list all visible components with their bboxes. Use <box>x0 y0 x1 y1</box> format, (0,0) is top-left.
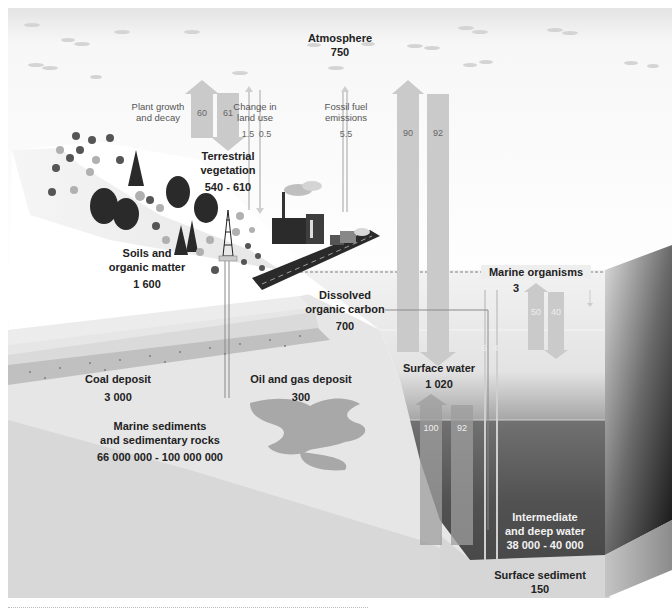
soils-label: Soils and organic matter 1 600 <box>92 246 202 291</box>
flux-deep-up: 100 <box>420 423 442 433</box>
terrestrial-line2: vegetation <box>178 163 278 177</box>
flux-doc-a: 6 <box>479 343 489 353</box>
surface-water-value: 1 020 <box>384 377 494 391</box>
flux-marine-up: 50 <box>528 307 544 317</box>
surface-water-label: Surface water 1 020 <box>384 361 494 391</box>
fossil-fuel-label: Fossil fuel emissions <box>316 101 376 123</box>
atmosphere-label: Atmosphere 750 <box>290 31 390 59</box>
deep-water-line2: and deep water <box>490 524 600 538</box>
oil-gas-value: 300 <box>236 390 366 404</box>
flux-plant-up: 60 <box>191 108 213 118</box>
soils-line2: organic matter <box>92 260 202 274</box>
terrestrial-value: 540 - 610 <box>178 180 278 194</box>
coal-name: Coal deposit <box>68 372 168 386</box>
doc-line2: organic carbon <box>290 302 400 316</box>
deep-water-line1: Intermediate <box>490 510 600 524</box>
flux-fossil: 5.5 <box>331 129 361 139</box>
flux-ocean-down: 92 <box>427 128 449 138</box>
coal-value: 3 000 <box>68 390 168 404</box>
terrestrial-vegetation-label: Terrestrial vegetation 540 - 610 <box>178 149 278 194</box>
doc-line1: Dissolved <box>290 288 400 302</box>
atmosphere-name: Atmosphere <box>290 31 390 45</box>
flux-land-use-b: 0.5 <box>255 129 275 139</box>
surface-water-name: Surface water <box>384 361 494 375</box>
marine-sediments-line2: and sedimentary rocks <box>80 433 240 447</box>
soils-line1: Soils and <box>92 246 202 260</box>
land-use-line2: land use <box>230 112 280 123</box>
flux-marine-down: 40 <box>548 307 564 317</box>
doc-value: 700 <box>290 319 400 333</box>
marine-organisms-name: Marine organisms <box>481 265 591 279</box>
surface-sediment-name: Surface sediment <box>475 568 605 582</box>
flux-deep-down: 92 <box>451 423 473 433</box>
marine-organisms-value: 3 <box>506 281 526 295</box>
surface-sediment-label: Surface sediment 150 <box>475 568 605 596</box>
oil-gas-deposit-label: Oil and gas deposit 300 <box>236 372 366 404</box>
marine-sediments-label: Marine sediments and sedimentary rocks 6… <box>80 419 240 464</box>
terrestrial-line1: Terrestrial <box>178 149 278 163</box>
plant-growth-label: Plant growth and decay <box>128 101 188 123</box>
soils-value: 1 600 <box>92 277 202 291</box>
flux-ocean-up: 90 <box>397 128 419 138</box>
deep-water-value: 38 000 - 40 000 <box>490 538 600 552</box>
marine-organisms-label: Marine organisms <box>481 265 591 279</box>
fossil-line1: Fossil fuel <box>316 101 376 112</box>
dissolved-organic-carbon-label: Dissolved organic carbon 700 <box>290 288 400 333</box>
deep-water-label: Intermediate and deep water 38 000 - 40 … <box>490 510 600 552</box>
source-caption <box>8 607 368 612</box>
oil-gas-name: Oil and gas deposit <box>236 372 366 386</box>
fossil-line2: emissions <box>316 112 376 123</box>
land-use-label: Change in land use <box>230 101 280 123</box>
marine-sediments-value: 66 000 000 - 100 000 000 <box>80 450 240 464</box>
plant-growth-line1: Plant growth <box>128 101 188 112</box>
land-use-line1: Change in <box>230 101 280 112</box>
marine-sediments-line1: Marine sediments <box>80 419 240 433</box>
atmosphere-value: 750 <box>290 45 390 59</box>
surface-sediment-value: 150 <box>475 582 605 596</box>
flux-doc-b: 4 <box>491 343 501 353</box>
plant-growth-line2: and decay <box>128 112 188 123</box>
coal-deposit-label: Coal deposit 3 000 <box>68 372 168 404</box>
